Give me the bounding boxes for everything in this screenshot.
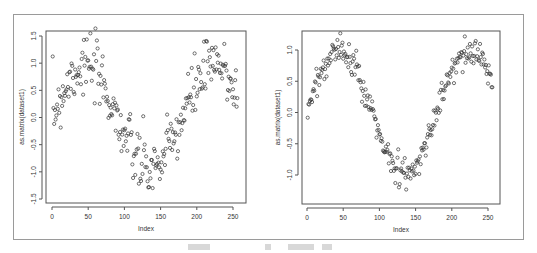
data-point [347,66,350,69]
data-point [464,61,467,64]
data-point [337,45,340,48]
data-point [314,81,317,84]
data-point [210,78,213,81]
x-axis-label: Index [393,226,410,233]
data-point [202,59,205,62]
y-tick-label: 0.5 [286,76,293,85]
plot-box [302,31,500,204]
x-tick-label: 150 [410,214,421,221]
data-point [426,136,429,139]
data-point [69,87,72,90]
data-point [440,81,443,84]
data-point [134,173,137,176]
data-point [78,66,81,69]
data-point [61,104,64,107]
data-point [418,155,421,158]
data-point [145,155,148,158]
data-point [419,163,422,166]
data-point [158,177,161,180]
data-point [390,155,393,158]
data-point [187,72,190,75]
data-point [131,176,134,179]
data-point [344,61,347,64]
x-tick-label: 100 [119,213,130,220]
data-point [103,79,106,82]
y-tick-label: -1.0 [286,169,293,181]
data-point [427,124,430,127]
data-point [190,66,193,69]
data-point [170,127,173,130]
y-tick-label: 0.0 [30,113,37,122]
data-point [306,116,309,119]
data-point [163,163,166,166]
data-point [461,71,464,74]
data-point [104,87,107,90]
data-point [207,71,210,74]
y-tick-label: 0.0 [286,108,293,117]
data-point [479,55,482,58]
data-point [320,72,323,75]
y-tick-label: -1.5 [30,193,37,205]
data-point [94,27,97,30]
data-point [352,57,355,60]
data-point [171,148,174,151]
plot-box [46,31,246,203]
data-point [405,188,408,191]
data-point [478,59,481,62]
data-point [342,57,345,60]
data-point [200,80,203,83]
data-point [178,133,181,136]
data-point [79,83,82,86]
data-point [164,147,167,150]
data-point [447,82,450,85]
data-point [98,102,101,105]
data-point [122,144,125,147]
x-tick-label: 150 [155,213,166,220]
data-point [376,124,379,127]
data-point [226,98,229,101]
x-tick-label: 200 [446,214,457,221]
data-point [55,114,58,117]
data-point [56,107,59,110]
data-point [136,132,139,135]
data-point [93,102,96,105]
data-point [92,53,95,56]
caption-fragment [288,244,314,250]
x-axis-label: Index [138,225,155,232]
plot-1: 050100150200250Index-1.5-1.0-0.50.00.51.… [18,27,246,232]
x-tick-label: 250 [228,213,239,220]
data-point [129,113,132,116]
data-point [463,50,466,53]
data-point [51,55,54,58]
data-point [318,83,321,86]
x-tick-label: 50 [85,213,93,220]
data-point [95,39,98,42]
data-point [424,154,427,157]
data-point [73,92,76,95]
y-tick-label: 1.0 [30,58,37,67]
data-point [119,114,122,117]
data-point [355,49,358,52]
data-point [451,58,454,61]
data-point [118,138,121,141]
data-point [61,85,64,88]
data-point [126,149,129,152]
data-point [329,59,332,62]
data-point [143,143,146,146]
y-axis-label: as.matrix(dataset1) [274,90,282,146]
data-point [413,165,416,168]
y-tick-label: 1.5 [30,31,37,40]
data-point [194,77,197,80]
data-point [176,150,179,153]
data-point [223,42,226,45]
data-point [482,63,485,66]
data-point [62,99,65,102]
data-point [336,38,339,41]
data-point [184,107,187,110]
data-point [214,46,217,49]
data-point [141,172,144,175]
data-point [146,180,149,183]
data-point [124,140,127,143]
data-point [203,83,206,86]
data-point [234,69,237,72]
